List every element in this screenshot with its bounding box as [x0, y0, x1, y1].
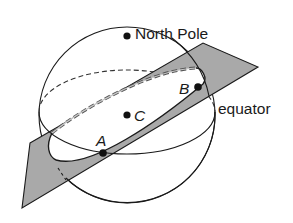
point-a-label: A: [95, 132, 106, 149]
point-a: [99, 149, 107, 157]
north-pole-label: North Pole: [135, 25, 208, 42]
north-pole-point: [123, 32, 130, 39]
point-c: [123, 111, 130, 118]
point-b-label: B: [179, 80, 189, 97]
sphere-diagram: North Pole equator C A B: [0, 0, 293, 223]
point-c-label: C: [134, 107, 146, 124]
equator-label: equator: [218, 100, 271, 117]
point-b: [194, 83, 202, 91]
